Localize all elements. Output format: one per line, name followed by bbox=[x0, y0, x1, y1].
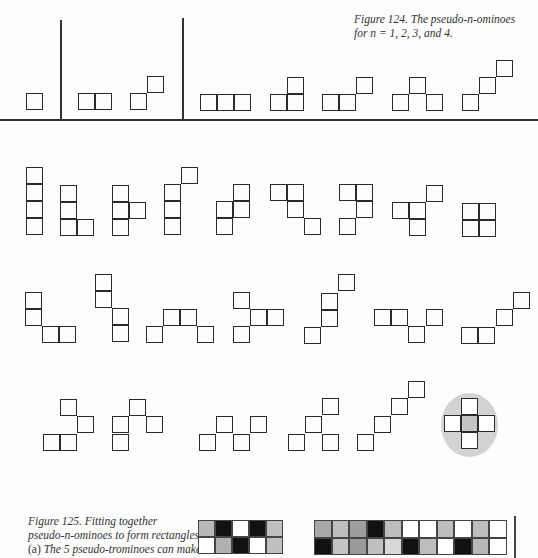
cell-square bbox=[233, 292, 250, 309]
cell-square bbox=[60, 434, 77, 451]
cell-square bbox=[43, 434, 60, 451]
cell-square bbox=[25, 309, 42, 326]
tiling-cell bbox=[349, 538, 367, 556]
cell-square bbox=[112, 185, 129, 202]
cell-square bbox=[478, 327, 495, 344]
cell-square bbox=[304, 327, 321, 344]
cell-square bbox=[130, 93, 147, 110]
cell-square bbox=[233, 201, 250, 218]
tiling-cell bbox=[489, 520, 507, 538]
cell-square bbox=[146, 416, 163, 433]
cell-square bbox=[321, 310, 338, 327]
tiling-cell bbox=[419, 520, 437, 538]
cell-square bbox=[95, 93, 112, 110]
cell-square bbox=[112, 219, 129, 236]
tiling-cell bbox=[249, 520, 266, 537]
cell-square bbox=[59, 326, 76, 343]
cell-square bbox=[233, 184, 250, 201]
tiling-cell bbox=[349, 520, 367, 538]
tiling-cell bbox=[367, 538, 385, 556]
cell-square bbox=[356, 77, 373, 94]
divider-n2-n3 bbox=[182, 18, 184, 120]
cell-square bbox=[26, 184, 43, 201]
cell-square bbox=[250, 309, 267, 326]
cell-square bbox=[233, 434, 250, 451]
cell-square bbox=[391, 309, 408, 326]
tiling-cell bbox=[249, 537, 266, 554]
cell-square bbox=[25, 292, 42, 309]
cell-square bbox=[164, 218, 181, 235]
cell-square bbox=[496, 60, 513, 77]
cell-square bbox=[42, 326, 59, 343]
cell-square bbox=[513, 292, 530, 309]
tiling-cell bbox=[472, 520, 490, 538]
cell-square bbox=[60, 185, 77, 202]
tiling-cell bbox=[472, 538, 490, 556]
cell-square bbox=[305, 416, 322, 433]
cell-square bbox=[199, 434, 216, 451]
tiling-cell bbox=[198, 520, 215, 537]
cell-square bbox=[112, 308, 129, 325]
cell-square bbox=[163, 309, 180, 326]
figure-divider-line bbox=[0, 119, 538, 121]
cell-square bbox=[339, 218, 356, 235]
tiling-cell bbox=[215, 520, 232, 537]
cell-square bbox=[392, 202, 409, 219]
cell-square bbox=[408, 381, 425, 398]
tiling-cell bbox=[489, 538, 507, 556]
figure-125-label-a: (a) bbox=[28, 543, 41, 555]
cell-square bbox=[461, 327, 478, 344]
cell-square bbox=[95, 274, 112, 291]
cell-square bbox=[426, 185, 443, 202]
figure-125-caption-line2: pseudo-n-ominoes to form rectangles: bbox=[28, 528, 203, 542]
cell-square bbox=[216, 416, 233, 433]
cell-square bbox=[180, 309, 197, 326]
cell-square bbox=[304, 218, 321, 235]
cell-square bbox=[146, 326, 163, 343]
cell-square bbox=[287, 77, 304, 94]
cell-square bbox=[322, 434, 339, 451]
cell-square bbox=[60, 219, 77, 236]
cell-square bbox=[77, 219, 94, 236]
cell-square bbox=[60, 399, 77, 416]
cell-square bbox=[426, 94, 443, 111]
tiling-cell bbox=[198, 537, 215, 554]
cell-square bbox=[374, 309, 391, 326]
tiling-cell bbox=[232, 520, 249, 537]
tiling-cell bbox=[332, 538, 350, 556]
cell-square bbox=[26, 167, 43, 184]
figure-125-caption: Figure 125. Fitting together pseudo-n-om… bbox=[28, 514, 203, 556]
figure-124-caption-line1: Figure 124. The pseudo-n-ominoes bbox=[354, 12, 515, 26]
cell-square bbox=[233, 326, 250, 343]
cell-square bbox=[26, 93, 43, 110]
cell-square bbox=[461, 415, 478, 432]
tiling-cell bbox=[454, 538, 472, 556]
tiling-cell bbox=[384, 520, 402, 538]
cell-square bbox=[77, 416, 94, 433]
cell-square bbox=[479, 220, 496, 237]
cell-square bbox=[322, 94, 339, 111]
cell-square bbox=[461, 432, 478, 449]
tiling-cell bbox=[402, 520, 420, 538]
tiling-cell bbox=[314, 538, 332, 556]
cell-square bbox=[462, 94, 479, 111]
cell-square bbox=[478, 415, 495, 432]
cell-square bbox=[129, 202, 146, 219]
cell-square bbox=[409, 77, 426, 94]
cell-square bbox=[112, 416, 129, 433]
figure-124-caption: Figure 124. The pseudo-n-ominoes for n =… bbox=[354, 12, 515, 40]
cell-square bbox=[462, 203, 479, 220]
cell-square bbox=[181, 167, 198, 184]
cell-square bbox=[147, 76, 164, 93]
cell-square bbox=[374, 416, 391, 433]
figure-124-caption-line2: for n = 1, 2, 3, and 4. bbox=[354, 26, 515, 40]
tiling-cell bbox=[232, 537, 249, 554]
cell-square bbox=[267, 309, 284, 326]
cell-square bbox=[444, 415, 461, 432]
cell-square bbox=[462, 220, 479, 237]
cell-square bbox=[496, 309, 513, 326]
cell-square bbox=[426, 309, 443, 326]
cell-square bbox=[356, 201, 373, 218]
cell-square bbox=[479, 77, 496, 94]
cell-square bbox=[164, 201, 181, 218]
